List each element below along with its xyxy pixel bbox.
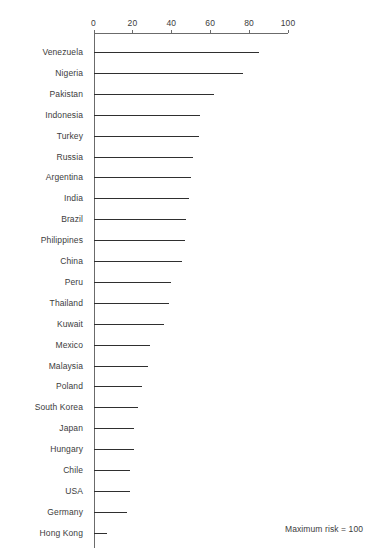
bar bbox=[94, 386, 143, 387]
bar bbox=[94, 52, 259, 53]
horizontal-bar-chart: 020406080100 VenezuelaNigeriaPakistanInd… bbox=[0, 0, 379, 555]
bar bbox=[94, 177, 191, 178]
x-tick-mark bbox=[94, 30, 95, 33]
bar bbox=[94, 407, 139, 408]
bar bbox=[94, 303, 170, 304]
x-tick-mark bbox=[210, 30, 211, 33]
x-tick-label: 80 bbox=[244, 18, 254, 28]
category-label: Chile bbox=[63, 465, 83, 475]
x-axis-line bbox=[94, 33, 289, 34]
category-label: Japan bbox=[59, 423, 83, 433]
category-label: Philippines bbox=[41, 235, 83, 245]
category-label: Thailand bbox=[50, 298, 83, 308]
x-tick-label: 100 bbox=[281, 18, 295, 28]
bar bbox=[94, 198, 189, 199]
x-tick-label: 20 bbox=[128, 18, 138, 28]
category-label: Germany bbox=[47, 507, 83, 517]
x-tick-label: 60 bbox=[205, 18, 215, 28]
category-label: Indonesia bbox=[45, 110, 83, 120]
bar bbox=[94, 261, 182, 262]
bar bbox=[94, 470, 131, 471]
category-label: USA bbox=[65, 486, 83, 496]
x-tick-mark bbox=[249, 30, 250, 33]
bar bbox=[94, 240, 185, 241]
category-label: Pakistan bbox=[50, 89, 83, 99]
bar bbox=[94, 345, 150, 346]
x-tick-label: 40 bbox=[166, 18, 176, 28]
bar bbox=[94, 491, 131, 492]
bar bbox=[94, 533, 108, 534]
category-label: Turkey bbox=[57, 131, 83, 141]
bar bbox=[94, 219, 186, 220]
category-label: Brazil bbox=[61, 214, 83, 224]
category-label: Peru bbox=[65, 277, 83, 287]
bar bbox=[94, 73, 244, 74]
category-label: Mexico bbox=[55, 340, 83, 350]
category-label: Argentina bbox=[46, 172, 83, 182]
bar bbox=[94, 449, 135, 450]
x-tick-mark bbox=[132, 30, 133, 33]
category-label: Nigeria bbox=[55, 68, 83, 78]
bar bbox=[94, 324, 164, 325]
category-label: Hong Kong bbox=[40, 528, 83, 538]
category-label: China bbox=[60, 256, 83, 266]
x-tick-mark bbox=[171, 30, 172, 33]
bar bbox=[94, 282, 172, 283]
bar bbox=[94, 115, 201, 116]
category-label: Poland bbox=[56, 381, 83, 391]
bar bbox=[94, 157, 193, 158]
category-label: Hungary bbox=[50, 444, 83, 454]
bar bbox=[94, 136, 199, 137]
bar bbox=[94, 428, 135, 429]
category-label: Malaysia bbox=[49, 361, 83, 371]
category-label: Kuwait bbox=[57, 319, 83, 329]
x-tick-label: 0 bbox=[91, 18, 96, 28]
max-risk-annotation: Maximum risk = 100 bbox=[285, 524, 363, 534]
chart-page: 020406080100 VenezuelaNigeriaPakistanInd… bbox=[0, 0, 379, 555]
x-tick-mark bbox=[288, 30, 289, 33]
bar bbox=[94, 512, 127, 513]
category-label: South Korea bbox=[35, 402, 83, 412]
bar bbox=[94, 366, 148, 367]
bar bbox=[94, 94, 215, 95]
category-label: Russia bbox=[56, 152, 83, 162]
category-label: India bbox=[64, 193, 83, 203]
category-label: Venezuela bbox=[42, 47, 83, 57]
